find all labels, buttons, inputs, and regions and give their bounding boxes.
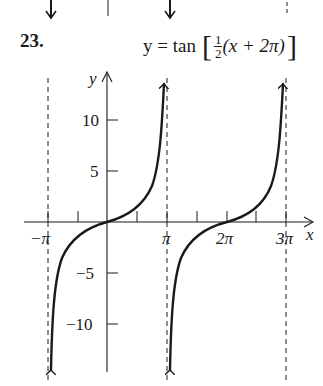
equation-title: y = tan [ 1 2 (x + 2π) ]: [143, 31, 297, 61]
previous-problem-remnants: [46, 0, 287, 18]
x-tick-label-2pi: 2π: [216, 230, 233, 247]
curve-branch-2: [170, 84, 283, 370]
equation-inner: (x + 2π): [222, 35, 284, 57]
x-axis-label: x: [306, 226, 314, 243]
y-tick-label-m5: −5: [76, 265, 94, 282]
y-axis-label: y: [89, 70, 97, 87]
x-tick-label-pi: π: [162, 230, 171, 247]
y-tick-label-10: 10: [82, 112, 99, 129]
bracket-close: ]: [287, 31, 297, 61]
problem-number: 23.: [20, 30, 44, 52]
fraction: 1 2: [214, 33, 223, 60]
x-tick-label-3pi: 3π: [276, 230, 293, 247]
x-tick-label-neg-pi: −π: [30, 230, 50, 247]
y-tick-label-m10: −10: [66, 316, 93, 333]
bracket-open: [: [202, 31, 212, 61]
y-tick-label-5: 5: [90, 163, 99, 180]
equation-prefix: y = tan: [143, 35, 196, 57]
